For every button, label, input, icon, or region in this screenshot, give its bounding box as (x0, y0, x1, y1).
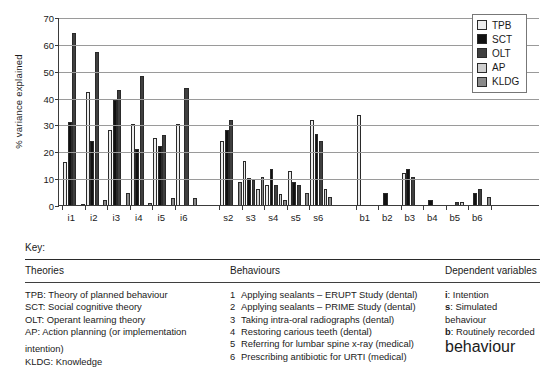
behaviour-text: Applying sealants – ERUPT Study (dental) (241, 289, 417, 301)
legend-item-SCT[interactable]: SCT (477, 32, 519, 46)
bar-s3-AP[interactable] (256, 189, 260, 205)
x-tick-mark (130, 206, 131, 210)
gridline (59, 125, 539, 126)
behaviour-number: 5 (230, 338, 241, 350)
chart-legend[interactable]: TPBSCTOLTAPKLDG (472, 14, 527, 93)
behaviour-text: Referring for lumbar spine x-ray (medica… (241, 338, 414, 350)
legend-item-KLDG[interactable]: KLDG (477, 75, 519, 89)
y-tick-label: 60 (43, 39, 54, 50)
behaviour-text: Restoring carious teeth (dental) (241, 326, 372, 338)
x-tick-label-b4: b4 (427, 212, 438, 223)
bar-i2-OLT[interactable] (95, 52, 99, 205)
bar-s3-KLDG[interactable] (261, 177, 265, 205)
y-tick-mark (55, 152, 59, 153)
bar-i3-TPB[interactable] (108, 130, 112, 205)
bar-b3-SCT[interactable] (406, 169, 410, 205)
bar-b5-OLT[interactable] (455, 202, 459, 205)
bar-i5-SCT[interactable] (158, 146, 162, 205)
x-tick-label-i1: i1 (68, 212, 75, 223)
bar-i6-KLDG[interactable] (193, 198, 197, 205)
y-tick-label: 40 (43, 93, 54, 104)
bar-b3-TPB[interactable] (402, 173, 406, 205)
bar-i3-KLDG[interactable] (126, 193, 130, 205)
x-tick-mark (264, 206, 265, 210)
legend-item-OLT[interactable]: OLT (477, 46, 519, 60)
bar-b4-SCT[interactable] (428, 200, 432, 205)
y-tick-label: 20 (43, 147, 54, 158)
bar-s6-KLDG[interactable] (328, 197, 332, 205)
bar-i2-SCT[interactable] (90, 141, 94, 205)
bar-i4-SCT[interactable] (135, 149, 139, 205)
bar-group-s6 (310, 18, 333, 205)
bar-i3-OLT[interactable] (117, 90, 121, 205)
bar-s2-OLT[interactable] (229, 120, 233, 205)
bar-group-s3 (243, 18, 266, 205)
bar-b3-OLT[interactable] (411, 177, 415, 205)
bar-i4-OLT[interactable] (140, 76, 144, 205)
bar-i5-OLT[interactable] (162, 135, 166, 205)
bar-b6-KLDG[interactable] (487, 197, 491, 205)
bar-b6-OLT[interactable] (478, 189, 482, 205)
bar-i5-KLDG[interactable] (171, 198, 175, 205)
y-tick-mark (55, 99, 59, 100)
bar-s4-OLT[interactable] (274, 185, 278, 205)
bar-b1-TPB[interactable] (357, 115, 361, 205)
bar-s2-TPB[interactable] (220, 141, 224, 205)
bar-b5-AP[interactable] (460, 202, 464, 205)
bar-group-i4 (131, 18, 154, 205)
bar-s5-TPB[interactable] (288, 171, 292, 205)
bar-i2-KLDG[interactable] (103, 200, 107, 205)
x-tick-label-i2: i2 (90, 212, 97, 223)
bar-s6-SCT[interactable] (315, 134, 319, 205)
bar-s3-OLT[interactable] (252, 180, 256, 206)
theory-item: AP: Action planning (or implementation (25, 326, 230, 338)
legend-item-TPB[interactable]: TPB (477, 18, 519, 32)
legend-item-AP[interactable]: AP (477, 61, 519, 75)
key-title: Key: (25, 242, 540, 253)
gridline (59, 72, 539, 73)
bar-s4-SCT[interactable] (270, 169, 274, 205)
gridline (59, 45, 539, 46)
bar-s4-AP[interactable] (279, 194, 283, 205)
bar-s4-KLDG[interactable] (283, 200, 287, 205)
bar-i1-SCT[interactable] (68, 122, 72, 205)
legend-label: OLT (492, 48, 511, 59)
key-body-row: TPB: Theory of planned behaviourSCT: Soc… (25, 283, 540, 369)
bar-s6-OLT[interactable] (319, 141, 323, 205)
bar-s3-TPB[interactable] (243, 161, 247, 205)
dependent-variable-key: s (445, 301, 450, 312)
bar-i2-TPB[interactable] (86, 92, 90, 205)
x-tick-mark (356, 206, 357, 210)
bar-s2-KLDG[interactable] (238, 182, 242, 205)
behaviour-item: 6Prescribing antibiotic for URTI (medica… (230, 351, 445, 363)
group-separator (333, 18, 357, 205)
bar-i1-KLDG[interactable] (81, 204, 85, 205)
bar-s3-SCT[interactable] (247, 178, 251, 205)
bar-s6-TPB[interactable] (310, 120, 314, 205)
bar-s4-TPB[interactable] (265, 185, 269, 205)
bar-b6-SCT[interactable] (473, 193, 477, 205)
theory-item-continuation: intention) (25, 343, 64, 354)
bar-s6-AP[interactable] (324, 189, 328, 205)
bar-s5-KLDG[interactable] (305, 193, 309, 205)
bar-i1-TPB[interactable] (63, 162, 67, 205)
theory-item: SCT: Social cognitive theory (25, 301, 230, 313)
bar-s2-SCT[interactable] (225, 130, 229, 205)
bar-b2-SCT[interactable] (383, 193, 387, 205)
x-tick-mark (175, 206, 176, 210)
bar-i6-TPB[interactable] (176, 124, 180, 205)
bar-i5-TPB[interactable] (153, 138, 157, 205)
legend-label: TPB (492, 20, 511, 31)
theory-item: KLDG: Knowledge (25, 356, 230, 368)
bar-i6-OLT[interactable] (184, 88, 188, 205)
bar-s5-SCT[interactable] (292, 182, 296, 205)
bar-i4-KLDG[interactable] (148, 203, 152, 205)
bar-i4-TPB[interactable] (131, 124, 135, 205)
y-tick-mark (55, 45, 59, 46)
bar-s5-OLT[interactable] (297, 185, 301, 205)
dependent-variable-key: i (445, 289, 448, 300)
x-tick-label-s2: s2 (223, 212, 233, 223)
theory-item: OLT: Operant learning theory (25, 314, 230, 326)
x-tick-label-s6: s6 (313, 212, 323, 223)
x-axis-ticks: i1i2i3i4i5i6s2s3s4s5s6b1b2b3b4b5b6 (58, 206, 539, 232)
